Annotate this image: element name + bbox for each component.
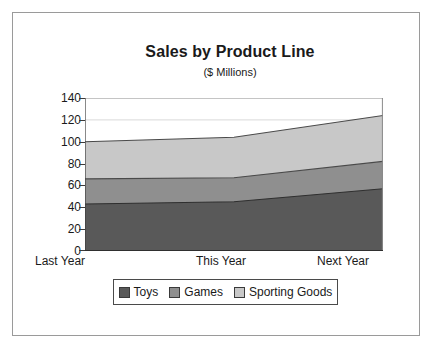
- legend-label-toys: Toys: [134, 286, 159, 299]
- chart-legend: Toys Games Sporting Goods: [113, 279, 338, 305]
- chart-title: Sales by Product Line: [13, 43, 434, 61]
- y-tick-label-20: 20: [47, 223, 81, 235]
- x-tick-label-next-year: Next Year: [317, 254, 369, 268]
- y-tick-label-40: 40: [47, 201, 81, 213]
- y-tick-label-80: 80: [47, 158, 81, 170]
- x-tick-label-last-year: Last Year: [35, 254, 85, 268]
- x-tick-label-this-year: This Year: [196, 254, 246, 268]
- y-tick-label-100: 100: [47, 136, 81, 148]
- legend-item-toys[interactable]: Toys: [119, 286, 159, 299]
- y-tick-label-140: 140: [47, 92, 81, 104]
- y-tick-label-120: 120: [47, 114, 81, 126]
- legend-swatch-toys-icon: [119, 287, 130, 298]
- legend-item-sporting-goods[interactable]: Sporting Goods: [234, 286, 332, 299]
- chart-subtitle: ($ Millions): [13, 66, 434, 78]
- legend-item-games[interactable]: Games: [169, 286, 223, 299]
- plot-area: [85, 98, 383, 251]
- legend-swatch-games-icon: [169, 287, 180, 298]
- y-axis-labels: 140 120 100 80 60 40 20 0: [43, 98, 81, 251]
- area-chart-svg: [85, 98, 383, 251]
- legend-swatch-sporting-goods-icon: [234, 287, 245, 298]
- legend-label-sporting-goods: Sporting Goods: [249, 286, 332, 299]
- legend-label-games: Games: [184, 286, 223, 299]
- chart-frame: Sales by Product Line ($ Millions) 140 1…: [12, 12, 420, 336]
- y-tick-label-60: 60: [47, 179, 81, 191]
